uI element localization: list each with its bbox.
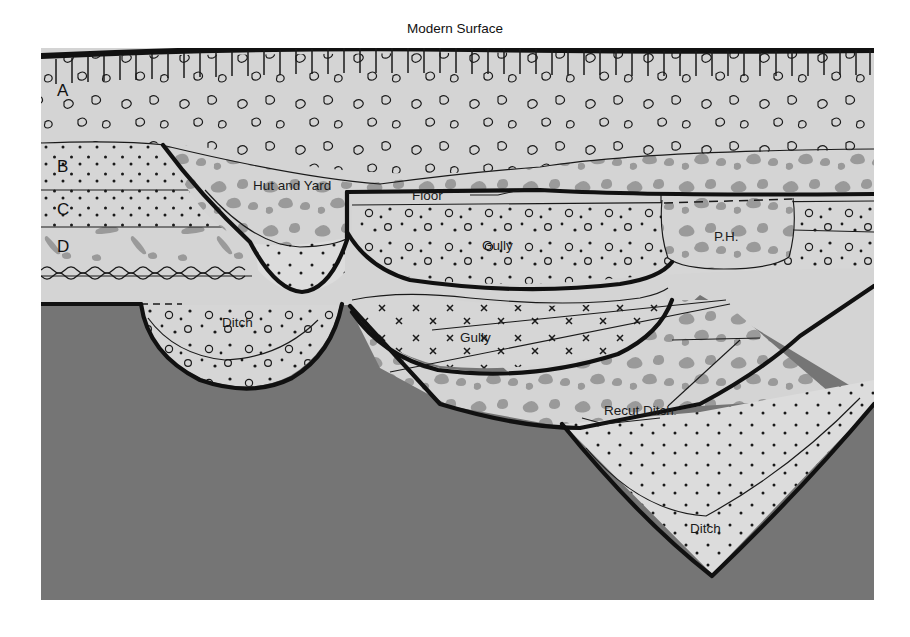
stratum-label-C: C <box>57 200 69 219</box>
ditch-left-label: Ditch <box>222 315 253 330</box>
post-hole-label: P.H. <box>714 229 739 244</box>
section-body <box>41 48 874 600</box>
stratum-label-B: B <box>57 157 68 176</box>
stratum-label-D: D <box>57 237 69 256</box>
modern-surface-label: Modern Surface <box>407 21 503 36</box>
recut-ditch-label: Recut Ditch <box>604 403 674 418</box>
hut-and-yard-label: Hut and Yard <box>253 178 331 193</box>
stratum-D-fill <box>41 227 262 270</box>
floor-label: Floor <box>412 188 443 203</box>
gully-upper-label: Gully <box>482 238 513 253</box>
stratum-label-A: A <box>57 81 69 100</box>
ditch-right-label: Ditch <box>690 521 721 536</box>
figure-stage: Modern Surface <box>0 0 910 637</box>
section-drawing: Modern Surface <box>0 0 910 637</box>
gully-lower-label: Gully <box>460 330 491 345</box>
